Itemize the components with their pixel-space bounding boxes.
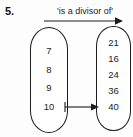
domain-element: 8 [31,65,67,75]
domain-element: 7 [31,46,67,56]
mapping-diagram-figure: 5. 'is a divisor of' 7 8 9 10 21 16 24 3… [0,0,133,137]
codomain-element: 40 [97,102,130,112]
codomain-element: 24 [97,70,130,80]
question-number: 5. [5,5,14,17]
codomain-element: 21 [97,38,130,48]
codomain-element: 16 [97,54,130,64]
domain-element: 10 [31,102,67,112]
domain-set-oval: 7 8 9 10 [30,27,68,133]
codomain-set-oval: 21 16 24 36 40 [96,26,131,131]
relation-direction-arrow-icon [42,16,124,26]
codomain-element: 36 [97,86,130,96]
mapping-arrow-icon [64,101,100,113]
domain-element: 9 [31,83,67,93]
